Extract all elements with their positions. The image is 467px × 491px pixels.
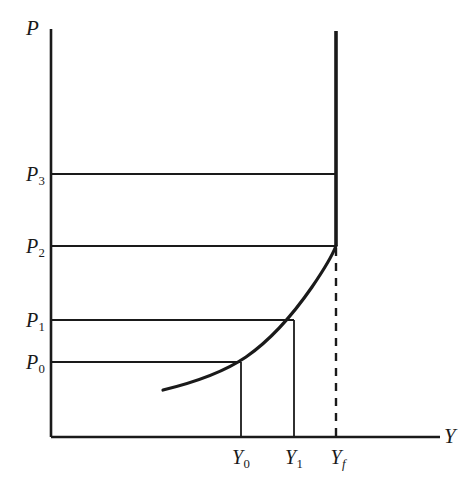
output-tick-Y1: Y1 <box>285 447 303 467</box>
price-tick-P1-letter: P <box>26 309 38 331</box>
output-tick-Y1-letter: Y <box>285 446 296 468</box>
price-tick-P3-letter: P <box>26 163 38 185</box>
figure-canvas <box>0 0 467 491</box>
output-drop-lines <box>241 248 336 437</box>
axes <box>51 29 440 437</box>
price-tick-P0: P0 <box>26 352 45 372</box>
price-tick-P2-letter: P <box>26 235 38 257</box>
price-tick-P1-subscript: 1 <box>39 320 45 334</box>
output-tick-Yf-subscript: f <box>342 457 346 471</box>
price-tick-P0-subscript: 0 <box>39 362 45 376</box>
aggregate-supply-curve <box>163 246 336 390</box>
output-tick-Y0: Y0 <box>232 447 250 467</box>
price-tick-P3-subscript: 3 <box>39 174 45 188</box>
price-tick-P3: P3 <box>26 164 45 184</box>
output-tick-Yf-letter: Y <box>330 446 341 468</box>
output-tick-Yf: Yf <box>330 447 345 467</box>
price-tick-P0-letter: P <box>26 351 38 373</box>
x-axis-label: Y <box>444 426 456 447</box>
price-tick-P1: P1 <box>26 310 45 330</box>
output-tick-Y0-letter: Y <box>232 446 243 468</box>
output-tick-Y0-subscript: 0 <box>244 457 250 471</box>
price-tick-P2-subscript: 2 <box>39 246 45 260</box>
output-tick-Y1-subscript: 1 <box>297 457 303 471</box>
aggregate-supply-figure: P Y P3 P2 P1 P0 Y0 Y1 Yf <box>0 0 467 491</box>
y-axis-label: P <box>26 18 39 39</box>
price-tick-P2: P2 <box>26 236 45 256</box>
